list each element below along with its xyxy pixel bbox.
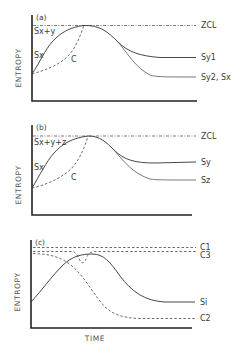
panel-b-zcl-label: ZCL [201,132,217,141]
panel-a-zcl-label: ZCL [201,21,217,30]
entropy-time-figure: ENTROPY (a) ZCL Sx+y Sx C Sy1 Sy2, Sx EN… [0,0,242,355]
panel-c-c3-label: C3 [200,251,211,260]
panel-a-sy2-curve [118,42,196,77]
panel-b-y-axis-label: ENTROPY [14,165,23,204]
panel-c-si-curve [31,254,195,302]
panel-b-sy-label: Sy [201,158,211,167]
panel-c-tag: (c) [35,238,45,247]
panel-a-tag: (a) [36,13,47,22]
panel-b-sz-label: Sz [201,176,210,185]
panel-b-sz-curve [114,150,196,180]
panel-b-c-label: C [71,173,77,182]
panel-c-c2-curve [33,254,196,319]
panel-a: ENTROPY (a) ZCL Sx+y Sx C Sy1 Sy2, Sx [14,13,231,101]
panel-a-sy1-curve [84,25,196,57]
panel-c-c2-label: C2 [200,314,211,323]
panel-c-y-axis-label: ENTROPY [13,272,22,311]
panel-c-si-label: Si [200,298,207,307]
panel-c-axes [31,240,192,328]
panel-a-sy1-label: Sy1 [201,53,216,62]
panel-a-axes [32,15,197,101]
panel-b-sx-label: Sx [34,163,44,172]
panel-b: ENTROPY (b) ZCL Sx+y+z Sx C Sy Sz [14,123,217,215]
panel-a-peak-label: Sx+y [34,27,56,36]
panel-a-sx-label: Sx [34,51,44,60]
panel-a-sy2-label: Sy2, Sx [201,73,231,82]
panel-a-y-axis-label: ENTROPY [14,48,23,87]
panel-b-sy-curve [88,136,196,163]
x-axis-label: TIME [84,334,105,343]
panel-c: ENTROPY (c) C1 C3 Si C2 TIME [13,238,211,343]
panel-a-c-label: C [71,55,77,64]
panel-b-tag: (b) [36,123,47,132]
panel-b-peak-label: Sx+y+z [34,138,66,147]
